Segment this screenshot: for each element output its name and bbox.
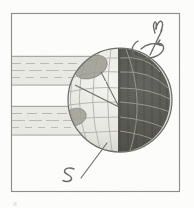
- svg-text:a: a: [13, 198, 17, 208]
- caption-fragment: a: [13, 198, 17, 208]
- diagram-canvas: a: [0, 0, 194, 208]
- sketch-figure: a: [0, 0, 194, 208]
